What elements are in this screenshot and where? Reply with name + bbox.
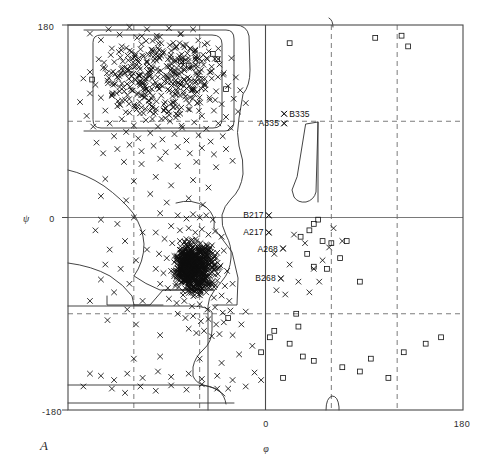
data-point-cross	[239, 322, 244, 327]
data-point-cross	[98, 194, 103, 199]
data-point-cross	[230, 378, 235, 383]
data-point-cross	[165, 57, 170, 62]
data-point-cross	[160, 137, 165, 142]
data-point-cross	[153, 230, 158, 235]
data-point-cross	[109, 386, 114, 391]
data-point-cross	[156, 41, 161, 46]
data-point-cross	[127, 48, 132, 53]
data-point-cross	[160, 49, 165, 54]
data-point-cross	[138, 47, 143, 52]
data-point-cross	[107, 121, 112, 126]
data-point-cross	[230, 158, 235, 163]
data-point-cross	[158, 354, 163, 359]
data-point-cross	[188, 47, 193, 52]
data-point-cross	[94, 140, 99, 145]
data-point-cross	[187, 76, 192, 81]
data-point-cross	[124, 198, 129, 203]
data-point-cross	[166, 110, 171, 115]
data-point-cross	[125, 307, 130, 312]
data-point-cross	[112, 60, 117, 65]
data-point-square	[406, 44, 411, 49]
data-point-cross	[153, 266, 158, 271]
data-point-square	[272, 328, 277, 333]
data-point-cross	[237, 352, 242, 357]
data-point-cross	[107, 247, 112, 252]
residue-annotations: B335A335B217A217A268B268	[243, 109, 310, 284]
data-point-cross	[227, 298, 232, 303]
data-point-cross	[199, 227, 204, 232]
data-point-cross	[208, 139, 213, 144]
data-point-cross	[122, 89, 127, 94]
data-point-square	[344, 239, 349, 244]
data-point-cross	[158, 156, 163, 161]
data-point-cross	[191, 313, 196, 318]
data-point-square	[307, 228, 312, 233]
data-point-cross	[259, 378, 264, 383]
data-point-cross	[194, 159, 199, 164]
data-point-cross	[164, 200, 169, 205]
data-point-cross	[175, 144, 180, 149]
data-point-cross	[266, 230, 271, 235]
data-point-cross	[143, 118, 148, 123]
data-point-cross	[98, 277, 103, 282]
data-point-cross	[139, 149, 144, 154]
data-point-cross	[153, 388, 158, 393]
data-point-cross	[144, 39, 149, 44]
data-point-cross	[145, 27, 150, 32]
data-point-square	[296, 324, 301, 329]
data-point-cross	[213, 98, 218, 103]
data-point-cross	[157, 251, 162, 256]
data-point-cross	[243, 309, 248, 314]
data-point-cross	[184, 387, 189, 392]
data-point-cross	[196, 133, 201, 138]
data-point-square	[287, 341, 292, 346]
data-point-square	[439, 335, 444, 340]
data-point-cross	[219, 360, 224, 365]
data-point-cross	[217, 332, 222, 337]
data-point-cross	[124, 129, 129, 134]
data-point-square	[373, 35, 378, 40]
data-point-square	[357, 369, 362, 374]
data-point-cross	[87, 371, 92, 376]
data-point-cross	[216, 121, 221, 126]
data-point-cross	[148, 191, 153, 196]
data-point-cross	[155, 75, 160, 80]
data-point-cross	[184, 138, 189, 143]
data-point-cross	[158, 281, 163, 286]
data-point-cross	[199, 145, 204, 150]
data-point-cross	[175, 164, 180, 169]
data-point-cross	[96, 57, 101, 62]
data-point-square	[423, 341, 428, 346]
data-point-cross	[317, 279, 322, 284]
data-point-cross	[112, 134, 117, 139]
data-point-cross	[81, 76, 86, 81]
x-axis-tick-180: 180	[454, 419, 471, 429]
data-point-cross	[191, 212, 196, 217]
data-point-cross	[153, 174, 158, 179]
data-point-cross	[192, 120, 197, 125]
data-point-cross	[192, 78, 197, 83]
data-point-cross	[112, 378, 117, 383]
data-point-cross	[174, 44, 179, 49]
data-point-cross	[162, 236, 167, 241]
data-point-cross	[138, 111, 143, 116]
data-point-cross	[193, 230, 198, 235]
data-point-cross	[155, 54, 160, 59]
data-point-cross	[108, 52, 113, 57]
data-point-cross	[101, 151, 106, 156]
data-point-cross	[243, 101, 248, 106]
data-point-square	[90, 77, 95, 82]
data-point-cross	[177, 239, 182, 244]
data-point-cross	[287, 262, 292, 267]
data-point-cross	[105, 318, 110, 323]
data-point-cross	[229, 56, 234, 61]
data-point-cross	[139, 162, 144, 167]
data-point-cross	[124, 46, 129, 51]
data-point-cross	[209, 64, 214, 69]
ramachandran-figure: 180 0 -180 0 180 ψ φ A	[0, 0, 489, 473]
plot-canvas: 180 0 -180 0 180 ψ φ A	[0, 0, 489, 473]
data-point-cross	[252, 370, 257, 375]
data-point-cross	[146, 52, 151, 57]
data-point-cross	[150, 117, 155, 122]
data-point-cross	[186, 371, 191, 376]
